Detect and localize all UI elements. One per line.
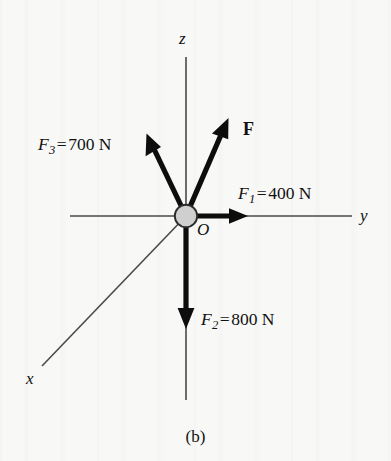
force-vector-resultant (186, 118, 229, 216)
force-symbol-f1: F (238, 183, 249, 203)
axis-label-z: z (179, 30, 186, 47)
force-equals-f3: = (57, 134, 67, 154)
force-label-f3: F3=700 N (38, 136, 111, 156)
diagram-canvas (0, 0, 391, 461)
force-equals-f2: = (220, 309, 230, 329)
force-unit-f3: N (99, 134, 112, 154)
origin-marker (175, 205, 197, 227)
force-magnitude-f2: 800 (231, 309, 257, 329)
force-unit-f1: N (299, 183, 312, 203)
figure-caption: (b) (0, 427, 391, 447)
resultant-force-label: F (243, 120, 254, 138)
axis-label-y: y (360, 207, 368, 224)
x-axis-line (42, 216, 186, 366)
force-label-f1: F1=400 N (238, 185, 311, 205)
force-symbol-f3: F (38, 134, 49, 154)
force-label-f2: F2=800 N (201, 311, 274, 331)
force-vector-f3 (146, 134, 186, 217)
force-subscript-f3: 3 (49, 143, 55, 157)
axis-label-x: x (26, 370, 34, 387)
force-equals-f1: = (257, 183, 267, 203)
force-magnitude-f1: 400 (268, 183, 294, 203)
force-subscript-f2: 2 (212, 318, 218, 332)
force-vector-diagram: z y x O F3=700 N F1=400 N F2=800 N F (b) (0, 0, 391, 461)
origin-label: O (197, 221, 209, 238)
force-vector-f2 (178, 216, 195, 329)
force-symbol-f2: F (201, 309, 212, 329)
force-subscript-f1: 1 (249, 192, 255, 206)
force-unit-f2: N (262, 309, 275, 329)
force-magnitude-f3: 700 (68, 134, 94, 154)
